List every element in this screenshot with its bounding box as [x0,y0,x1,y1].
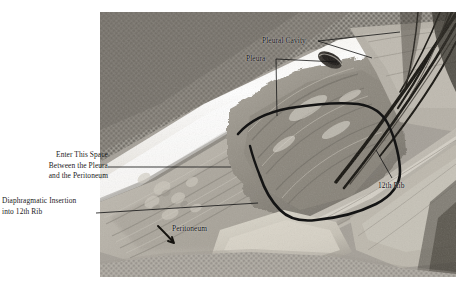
label-enter-this-space: Enter This Space Between the Pleura and … [10,150,108,182]
label-pleural-cavity: Pleural Cavity [262,36,306,47]
label-diaphragmatic-insertion: Diaphragmatic Insertion into 12th Rib [2,196,110,217]
figure-container: Enter This Space Between the Pleura and … [0,0,470,290]
label-peritoneum: Peritoneum [172,224,207,235]
photograph-content [100,12,456,277]
dissection-photograph [100,12,456,277]
label-12th-rib: 12th Rib [378,181,404,192]
label-pleura: Pleura [246,54,265,65]
label-enter-line-2: Between the Pleura [10,161,108,172]
label-diaphragmatic-line-1: Diaphragmatic Insertion [2,196,110,207]
label-enter-line-3: and the Peritoneum [10,171,108,182]
label-enter-line-1: Enter This Space [10,150,108,161]
label-diaphragmatic-line-2: into 12th Rib [2,207,110,218]
